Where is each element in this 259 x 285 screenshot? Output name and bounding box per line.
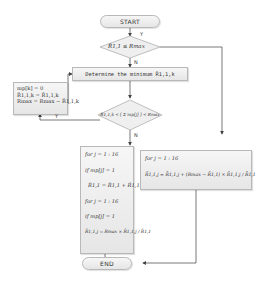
left-loop-line-4: for j = 1 : 16 xyxy=(85,198,129,205)
decision1-yes-label: Y xyxy=(140,31,143,37)
end-terminal: END xyxy=(82,257,132,270)
decision2-yes-label: Y xyxy=(55,113,58,119)
decision2-no-label: N xyxy=(134,132,138,138)
update-line-3: Rmax = Rmax − R̄1,1,k xyxy=(17,98,64,105)
left-loop-line-3: R̄1,1 = R̄1,1 + R̄1,1,j xyxy=(85,182,129,189)
left-loop-line-1: for j = 1 : 16 xyxy=(85,151,129,158)
left-loop-box: for j = 1 : 16 if mp[j] = 1 R̄1,1 = R̄1,… xyxy=(80,146,134,254)
start-terminal: START xyxy=(100,15,160,28)
right-loop-box: for j = 1 : 16 R̄1,1,j = R̄1,1,j + (Rmax… xyxy=(140,150,252,190)
right-loop-line-1: for j = 1 : 16 xyxy=(145,155,247,162)
left-loop-line-6: R̄1,1,j = Rmax × R̄1,1,j / R̄1,1 xyxy=(85,229,129,235)
end-label: END xyxy=(100,260,114,267)
left-loop-line-5: if mp[j] = 1 xyxy=(85,213,129,220)
update-box: mp[k] = 0 R̄1,1,k = R̄1,1,k Rmax = Rmax … xyxy=(13,82,68,115)
start-label: START xyxy=(120,18,140,25)
decision1-no-label: N xyxy=(134,59,138,65)
decision1-text: R̄1,1 ≤ Rmax xyxy=(108,43,145,49)
decision2-text: R̄1,1,k < [ Σ mp[j] ] < Rmax xyxy=(100,112,160,117)
right-loop-line-2: R̄1,1,j = R̄1,1,j + (Rmax − R̄1,1) × R̄1… xyxy=(145,172,247,178)
left-loop-line-2: if mp[j] = 1 xyxy=(85,167,129,174)
determine-minimum-process: Determine the minimum R̄1,1,k xyxy=(72,67,188,81)
